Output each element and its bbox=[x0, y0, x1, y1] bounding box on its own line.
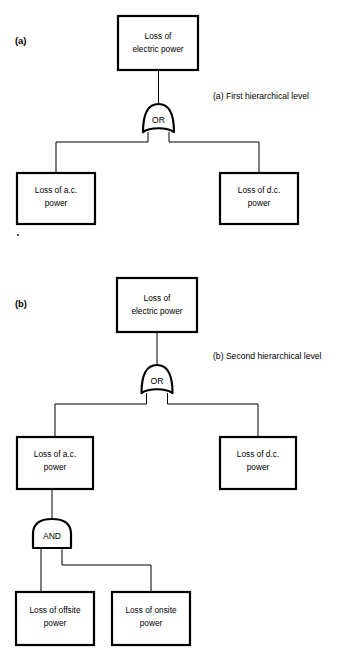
node-a-top-line2: electric power bbox=[132, 44, 183, 54]
node-a-top-rect bbox=[118, 16, 198, 70]
node-b-ac: Loss of a.c. power bbox=[17, 437, 93, 489]
node-b-dc: Loss of d.c. power bbox=[220, 437, 296, 489]
connector-b-or-to-children bbox=[55, 393, 258, 437]
gate-a-or: OR bbox=[143, 104, 174, 132]
node-b-dc-line2: power bbox=[247, 462, 270, 472]
gate-b-or-label: OR bbox=[151, 376, 164, 386]
panel-b-caption: (b) Second hierarchical level bbox=[213, 351, 322, 361]
scan-artifact-mark bbox=[17, 234, 19, 236]
connector-b-and-to-children bbox=[41, 548, 151, 592]
node-b-top-line2: electric power bbox=[131, 306, 182, 316]
node-b-top: Loss of electric power bbox=[117, 278, 197, 332]
node-a-top-line1: Loss of bbox=[145, 31, 172, 41]
node-a-dc: Loss of d.c. power bbox=[220, 173, 298, 224]
node-b-offsite-line2: power bbox=[44, 618, 67, 628]
node-a-dc-line2: power bbox=[248, 198, 271, 208]
node-b-onsite-line2: power bbox=[140, 618, 163, 628]
node-a-top: Loss of electric power bbox=[118, 16, 198, 70]
node-a-dc-line1: Loss of d.c. bbox=[238, 185, 280, 195]
panel-b: (b) (b) Second hierarchical level Loss o… bbox=[15, 278, 322, 645]
gate-a-or-label: OR bbox=[152, 115, 165, 125]
node-a-ac-line1: Loss of a.c. bbox=[35, 185, 77, 195]
gate-b-and-label: AND bbox=[43, 531, 61, 541]
node-b-offsite: Loss of offsite power bbox=[16, 592, 94, 645]
panel-a: (a) (a) First hierarchical level Loss of… bbox=[15, 16, 309, 236]
gate-b-or: OR bbox=[142, 365, 173, 393]
fault-tree-figure: (a) (a) First hierarchical level Loss of… bbox=[0, 0, 359, 659]
panel-a-tag: (a) bbox=[15, 35, 26, 46]
node-b-top-rect bbox=[117, 278, 197, 332]
node-b-offsite-line1: Loss of offsite bbox=[29, 605, 80, 615]
node-b-onsite-line1: Loss of onsite bbox=[125, 605, 177, 615]
panel-b-tag: (b) bbox=[15, 298, 27, 309]
node-a-ac: Loss of a.c. power bbox=[17, 173, 95, 224]
node-b-ac-line2: power bbox=[44, 462, 67, 472]
node-b-top-line1: Loss of bbox=[144, 293, 171, 303]
fault-tree-svg: (a) (a) First hierarchical level Loss of… bbox=[0, 0, 359, 659]
node-b-ac-line1: Loss of a.c. bbox=[34, 449, 76, 459]
node-b-dc-line1: Loss of d.c. bbox=[237, 449, 279, 459]
node-a-ac-line2: power bbox=[45, 198, 68, 208]
panel-a-caption: (a) First hierarchical level bbox=[213, 91, 309, 101]
gate-b-and: AND bbox=[33, 519, 71, 548]
node-b-onsite: Loss of onsite power bbox=[112, 592, 190, 645]
connector-a-or-to-children bbox=[56, 132, 259, 173]
